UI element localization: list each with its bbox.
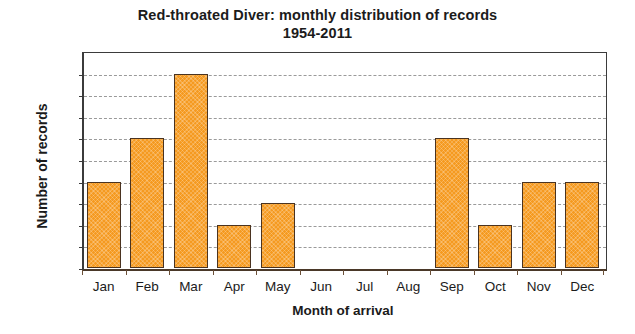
x-axis-tick-mark <box>343 270 344 275</box>
x-axis-tick-label: Mar <box>169 278 213 296</box>
x-axis-tick-label: May <box>256 278 300 296</box>
x-axis-tick-mark <box>169 270 170 275</box>
x-axis-tick-labels: JanFebMarAprMayJunJulAugSepOctNovDec <box>82 278 604 298</box>
chart-title-line2: 1954-2011 <box>0 24 635 42</box>
x-axis-tick-label: Sep <box>430 278 474 296</box>
y-axis-tick-mark <box>79 161 84 162</box>
x-axis-tick-mark <box>603 270 604 275</box>
x-axis-tick-label: Dec <box>561 278 605 296</box>
x-axis-tick-label: Jan <box>82 278 126 296</box>
gridline <box>84 204 606 205</box>
x-axis-tick-mark <box>256 270 257 275</box>
chart-title-line1: Red-throated Diver: monthly distribution… <box>138 7 498 23</box>
x-axis-tick-label: Jun <box>300 278 344 296</box>
gridline <box>84 75 606 76</box>
gridline <box>84 226 606 227</box>
x-axis-tick-mark <box>126 270 127 275</box>
gridline <box>84 118 606 119</box>
x-axis-tick-label: Nov <box>517 278 561 296</box>
gridline <box>84 161 606 162</box>
y-axis-tick-mark <box>79 118 84 119</box>
x-axis-tick-mark <box>300 270 301 275</box>
x-axis-tick-mark <box>517 270 518 275</box>
plot-area <box>82 52 607 271</box>
x-axis-tick-mark <box>561 270 562 275</box>
x-axis-tick-mark <box>474 270 475 275</box>
y-axis-title: Number of records <box>34 66 50 266</box>
x-axis-tick-label: Feb <box>126 278 170 296</box>
y-axis-tick-mark <box>79 204 84 205</box>
x-axis-tick-label: Jul <box>343 278 387 296</box>
gridline <box>84 247 606 248</box>
y-axis-tick-mark <box>79 226 84 227</box>
bar-chart: Red-throated Diver: monthly distribution… <box>0 0 635 334</box>
y-axis-tick-mark <box>79 75 84 76</box>
y-axis-tick-mark <box>79 247 84 248</box>
gridline <box>84 183 606 184</box>
x-axis-title: Month of arrival <box>82 303 604 318</box>
y-axis-tick-mark <box>79 139 84 140</box>
x-axis-tick-mark <box>387 270 388 275</box>
x-axis-tick-label: Aug <box>387 278 431 296</box>
x-axis-tick-label: Apr <box>213 278 257 296</box>
y-axis-tick-mark <box>79 96 84 97</box>
x-axis-tick-mark <box>82 270 83 275</box>
x-axis-tick-mark <box>213 270 214 275</box>
x-axis-tick-mark <box>430 270 431 275</box>
y-axis-tick-mark <box>79 183 84 184</box>
gridline <box>84 96 606 97</box>
chart-title: Red-throated Diver: monthly distribution… <box>0 6 635 42</box>
x-axis-tick-label: Oct <box>474 278 518 296</box>
gridline <box>84 139 606 140</box>
x-axis-tick-marks <box>82 270 604 276</box>
